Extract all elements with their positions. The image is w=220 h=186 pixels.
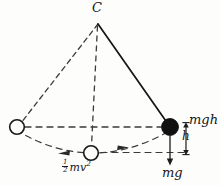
bob-right-solid <box>162 119 179 136</box>
potential-energy-label: mgh <box>189 113 218 126</box>
bob-left-hollow <box>10 120 25 135</box>
kinetic-energy-label: 12mv2 <box>62 159 91 174</box>
fraction-denominator: 2 <box>62 167 68 174</box>
one-half-fraction: 12 <box>62 159 68 174</box>
pendulum-energy-figure: C mgh h mg 12mv2 <box>0 0 220 186</box>
motion-arrowhead-left-icon <box>58 151 70 156</box>
weight-label: mg <box>162 166 183 179</box>
string-left-dashed <box>21 24 98 123</box>
string-right-solid <box>98 24 168 124</box>
pivot-label: C <box>92 1 102 14</box>
pendulum-diagram-canvas <box>0 0 220 186</box>
string-center-dashed <box>92 26 98 146</box>
kinetic-energy-exponent: 2 <box>86 159 91 168</box>
kinetic-energy-body: mv <box>69 161 86 174</box>
height-label: h <box>182 130 190 142</box>
